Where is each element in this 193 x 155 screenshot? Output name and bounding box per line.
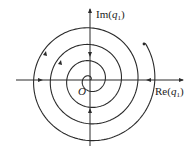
spiral-arrow-middle-icon — [58, 60, 62, 65]
spiral-phase-diagram: Im(q1) Re(q1) O — [0, 0, 193, 155]
axis-arrow-left-icon — [38, 78, 43, 82]
spiral-trajectory — [34, 28, 155, 141]
axis-arrow-bottom-icon — [88, 108, 92, 113]
origin-label: O — [78, 85, 86, 97]
x-axis-label: Re(q1) — [155, 85, 184, 99]
axis-arrow-right-icon — [146, 78, 151, 82]
y-axis-label: Im(q1) — [96, 8, 125, 22]
trajectory-start-dot — [143, 43, 146, 46]
spiral-arrow-outer-icon — [43, 51, 47, 56]
axis-arrow-top-icon — [88, 52, 92, 57]
